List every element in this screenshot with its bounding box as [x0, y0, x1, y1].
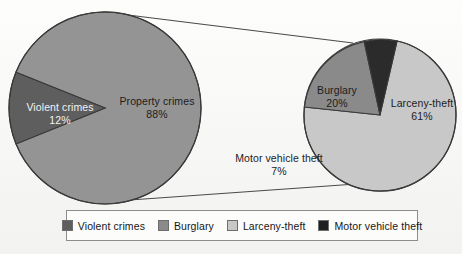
label-motor-vehicle-theft: Motor vehicle theft 7%: [220, 152, 338, 177]
label-larceny-theft-name: Larceny-theft: [391, 97, 454, 109]
label-violent-crimes-pct: 12%: [10, 114, 110, 127]
legend-label-violent-crimes: Violent crimes: [78, 220, 145, 232]
legend-item-violent-crimes[interactable]: Violent crimes: [62, 220, 145, 232]
label-larceny-theft: Larceny-theft 61%: [381, 97, 462, 122]
label-property-crimes: Property crimes 88%: [105, 95, 209, 120]
legend-item-burglary[interactable]: Burglary: [158, 220, 214, 232]
legend-label-burglary: Burglary: [174, 220, 214, 232]
label-burglary-name: Burglary: [317, 84, 357, 96]
label-motor-vehicle-theft-pct: 7%: [220, 165, 338, 178]
chart-legend: Violent crimes Burglary Larceny-theft Mo…: [66, 210, 418, 241]
legend-swatch-icon-motor-vehicle-theft: [318, 220, 329, 231]
legend-label-larceny-theft: Larceny-theft: [243, 220, 306, 232]
legend-label-motor-vehicle-theft: Motor vehicle theft: [334, 220, 422, 232]
label-burglary: Burglary 20%: [303, 84, 371, 109]
legend-item-motor-vehicle-theft[interactable]: Motor vehicle theft: [318, 220, 422, 232]
label-larceny-theft-pct: 61%: [381, 110, 462, 123]
label-violent-crimes: Violent crimes 12%: [10, 101, 110, 126]
label-property-crimes-name: Property crimes: [119, 95, 194, 107]
chart-figure: Violent crimes 12% Property crimes 88% B…: [0, 0, 462, 254]
label-motor-vehicle-theft-name: Motor vehicle theft: [235, 152, 323, 164]
legend-swatch-icon-larceny-theft: [227, 220, 238, 231]
label-violent-crimes-name: Violent crimes: [26, 101, 93, 113]
legend-item-larceny-theft[interactable]: Larceny-theft: [227, 220, 306, 232]
legend-swatch-icon-burglary: [158, 220, 169, 231]
label-property-crimes-pct: 88%: [105, 108, 209, 121]
legend-swatch-icon-violent-crimes: [62, 220, 73, 231]
label-burglary-pct: 20%: [303, 97, 371, 110]
